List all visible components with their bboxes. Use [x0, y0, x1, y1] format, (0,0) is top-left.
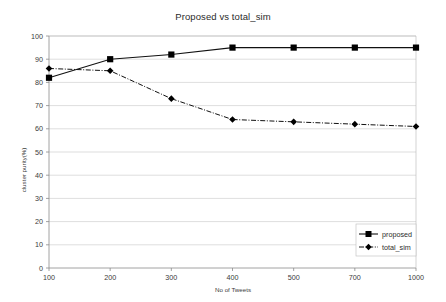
x-axis-ticks: 1002003004005007001000 — [43, 268, 424, 282]
x-tick-label: 500 — [288, 273, 300, 282]
y-axis-ticks: 0102030405060708090100 — [31, 32, 49, 273]
y-tick-label: 40 — [35, 171, 43, 180]
x-tick-label: 300 — [165, 273, 177, 282]
data-point-proposed — [168, 51, 174, 57]
legend-label-proposed[interactable]: proposed — [382, 230, 412, 239]
y-tick-label: 100 — [31, 32, 43, 41]
y-tick-label: 70 — [35, 101, 43, 110]
x-tick-label: 1000 — [408, 273, 424, 282]
y-tick-label: 10 — [35, 240, 43, 249]
y-tick-label: 0 — [39, 264, 43, 273]
chart-legend[interactable]: proposedtotal_sim — [356, 224, 416, 256]
data-point-proposed — [413, 45, 419, 51]
data-point-proposed — [229, 45, 235, 51]
data-point-total_sim — [352, 121, 359, 128]
y-tick-label: 50 — [35, 148, 43, 157]
data-point-total_sim — [168, 95, 175, 102]
y-axis-label: cluster purity(%) — [20, 148, 27, 193]
x-tick-label: 700 — [349, 273, 361, 282]
y-tick-label: 90 — [35, 55, 43, 64]
chart-figure: Proposed vs total_sim 010203040506070809… — [0, 0, 446, 302]
y-tick-label: 30 — [35, 194, 43, 203]
y-tick-label: 60 — [35, 124, 43, 133]
plot-canvas: 0102030405060708090100 10020030040050070… — [0, 0, 446, 302]
data-point-proposed — [46, 75, 52, 81]
data-point-total_sim — [107, 68, 114, 75]
data-point-proposed — [291, 45, 297, 51]
y-tick-label: 80 — [35, 78, 43, 87]
x-tick-label: 400 — [227, 273, 239, 282]
legend-label-total_sim[interactable]: total_sim — [382, 243, 411, 252]
x-tick-label: 200 — [104, 273, 116, 282]
legend-marker-proposed — [366, 231, 372, 237]
x-axis-label: No of Tweets — [215, 286, 251, 293]
data-point-total_sim — [290, 119, 297, 126]
data-point-total_sim — [46, 65, 53, 72]
y-gridlines — [49, 36, 416, 245]
data-series-layer — [46, 45, 420, 130]
data-point-proposed — [107, 56, 113, 62]
data-point-proposed — [352, 45, 358, 51]
data-point-total_sim — [229, 116, 236, 123]
y-tick-label: 20 — [35, 217, 43, 226]
x-tick-label: 100 — [43, 273, 55, 282]
series-line-proposed — [49, 48, 416, 78]
